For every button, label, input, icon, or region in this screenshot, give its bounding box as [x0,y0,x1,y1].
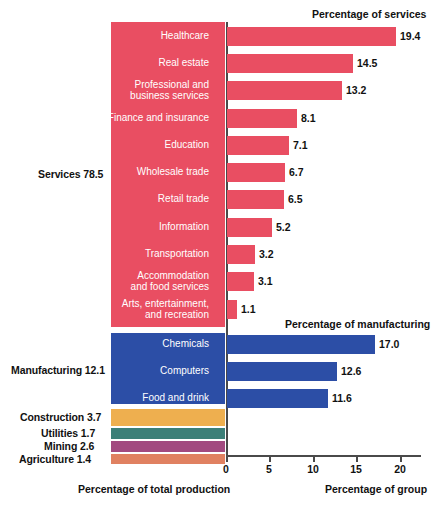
x-tick-20 [400,456,402,462]
bar-real-estate [227,54,353,73]
x-tick-label-0: 0 [223,463,229,475]
manufacturing-panel-title: Percentage of manufacturing [285,318,430,330]
bar-value-real-estate: 14.5 [357,57,377,69]
construction-group-block [111,409,225,426]
agriculture-group-label: Agriculture 1.4 [19,453,96,465]
bar-food-and-drink [227,389,328,408]
chart-container: Services 78.5 Manufacturing 12.1 Constru… [0,0,439,507]
left-axis-caption: Percentage of total production [78,483,230,495]
bar-professional-and-business-services [227,81,342,100]
x-tick-10 [313,456,315,462]
x-axis-line [226,455,421,457]
bar-label-real-estate: Real estate [59,58,209,69]
bar-value-wholesale-trade: 6.7 [289,166,304,178]
bar-label-information: Information [59,222,209,233]
bar-wholesale-trade [227,163,285,182]
bar-value-chemicals: 17.0 [379,338,399,350]
bar-label-professional-and-business-services: Professional and business services [59,80,209,101]
bar-value-arts-entertainment-and-recreation: 1.1 [241,303,256,315]
bar-label-computers: Computers [59,366,209,377]
bar-accommodation-and-food-services [227,272,254,291]
mining-group-block [111,441,225,452]
bar-label-finance-and-insurance: Finance and insurance [59,113,209,124]
bar-value-education: 7.1 [293,139,308,151]
bar-value-information: 5.2 [276,221,291,233]
bar-value-food-and-drink: 11.6 [332,392,352,404]
bar-label-healthcare: Healthcare [59,31,209,42]
bar-value-professional-and-business-services: 13.2 [346,84,366,96]
bar-label-chemicals: Chemicals [59,339,209,350]
bar-computers [227,362,337,381]
bar-label-retail-trade: Retail trade [59,194,209,205]
bar-value-finance-and-insurance: 8.1 [301,112,316,124]
x-tick-15 [356,456,358,462]
bar-value-accommodation-and-food-services: 3.1 [258,275,273,287]
bar-arts-entertainment-and-recreation [227,300,237,319]
bar-label-arts-entertainment-and-recreation: Arts, entertainment, and recreation [59,299,209,320]
construction-group-label: Construction 3.7 [20,411,96,423]
bar-chemicals [227,335,375,354]
bar-education [227,136,289,155]
x-tick-label-10: 10 [307,463,319,475]
utilities-group-label: Utilities 1.7 [41,427,96,439]
bar-label-accommodation-and-food-services: Accommodation and food services [59,271,209,292]
bar-information [227,218,272,237]
x-tick-0 [226,456,228,462]
bar-value-computers: 12.6 [341,365,361,377]
bar-finance-and-insurance [227,109,297,128]
x-tick-label-20: 20 [394,463,406,475]
agriculture-group-block [111,454,225,464]
services-panel-title: Percentage of services [312,8,426,20]
bar-healthcare [227,27,396,46]
bar-label-wholesale-trade: Wholesale trade [59,167,209,178]
utilities-group-block [111,428,225,439]
bar-label-transportation: Transportation [59,249,209,260]
bar-label-education: Education [59,140,209,151]
x-tick-label-15: 15 [350,463,362,475]
x-tick-5 [269,456,271,462]
right-axis-caption: Percentage of group [325,483,427,495]
bar-label-food-and-drink: Food and drink [59,393,209,404]
bar-transportation [227,245,255,264]
mining-group-label: Mining 2.6 [44,440,96,452]
bar-value-retail-trade: 6.5 [288,193,303,205]
bar-retail-trade [227,190,284,209]
x-tick-label-5: 5 [266,463,272,475]
bar-value-transportation: 3.2 [259,248,274,260]
bar-value-healthcare: 19.4 [400,30,420,42]
